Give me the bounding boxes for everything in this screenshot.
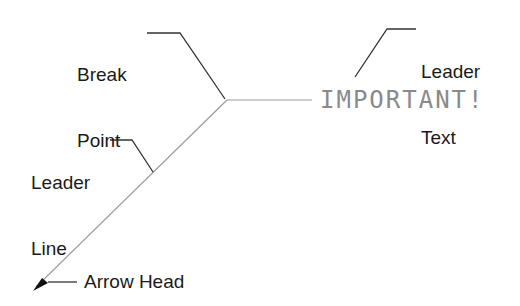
annotation-text: IMPORTANT! (320, 86, 485, 114)
leader-line-label-line1: Leader (31, 172, 90, 194)
leader-text-label-line1: Leader (421, 61, 480, 83)
leader-line-label-line2: Line (31, 238, 90, 260)
leader-line-label: Leader Line (31, 128, 90, 304)
arrow-head-label: Arrow Head (84, 271, 184, 293)
break-point-label-line1: Break (77, 64, 127, 86)
leader-text-callout (355, 29, 416, 77)
leader-text-label-line2: Text (421, 127, 480, 149)
break-point-callout (147, 33, 225, 99)
leader-diagram: Break Point Leader Text Leader Line Arro… (0, 0, 520, 306)
